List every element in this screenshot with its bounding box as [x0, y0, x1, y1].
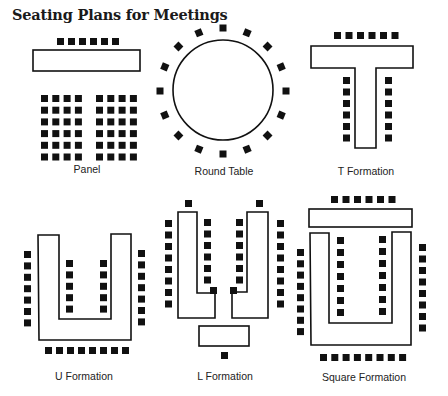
- chair-icon: [78, 347, 85, 354]
- chair-icon: [337, 297, 344, 304]
- chair-icon: [354, 354, 361, 361]
- chair-icon: [369, 32, 376, 39]
- chair-icon: [157, 88, 164, 95]
- chair-icon: [419, 279, 426, 286]
- chair-icon: [24, 251, 31, 258]
- chair-icon: [67, 347, 74, 354]
- chair-icon: [194, 28, 203, 37]
- chair-icon: [119, 107, 126, 114]
- chair-icon: [419, 244, 426, 251]
- chair-icon: [174, 42, 184, 52]
- chair-icon: [100, 306, 107, 313]
- label-square-formation: Square Formation: [322, 371, 406, 383]
- chair-icon: [277, 301, 284, 308]
- chair-icon: [96, 95, 103, 102]
- chair-icon: [366, 196, 373, 203]
- plan-l-formation: [165, 200, 284, 359]
- chair-icon: [111, 347, 118, 354]
- chair-icon: [343, 112, 350, 119]
- chair-icon: [389, 196, 396, 203]
- chair-icon: [96, 107, 103, 114]
- chair-icon: [52, 118, 59, 125]
- chair-icon: [119, 142, 126, 149]
- chair-icon: [160, 111, 169, 120]
- chair-icon: [160, 62, 169, 71]
- chair-icon: [399, 354, 406, 361]
- chair-icon: [107, 118, 114, 125]
- chair-icon: [165, 220, 172, 227]
- chair-icon: [56, 347, 63, 354]
- chair-icon: [277, 220, 284, 227]
- chair-icon: [64, 107, 71, 114]
- chair-icon: [96, 130, 103, 137]
- chair-icon: [90, 38, 97, 45]
- chair-icon: [130, 118, 137, 125]
- chair-icon: [419, 313, 426, 320]
- chair-icon: [236, 254, 243, 261]
- chair-icon: [138, 250, 145, 257]
- chair-icon: [68, 38, 75, 45]
- chair-icon: [79, 38, 86, 45]
- chair-icon: [41, 95, 48, 102]
- chair-icon: [100, 347, 107, 354]
- chair-icon: [130, 154, 137, 161]
- chair-icon: [66, 271, 73, 278]
- table: [199, 326, 249, 346]
- chair-icon: [419, 325, 426, 332]
- plan-square-formation: [297, 196, 426, 361]
- chair-icon: [337, 249, 344, 256]
- chair-icon: [100, 271, 107, 278]
- chair-icon: [119, 130, 126, 137]
- chair-icon: [337, 285, 344, 292]
- chair-icon: [283, 88, 290, 95]
- chair-icon: [377, 196, 384, 203]
- chair-icon: [96, 142, 103, 149]
- chair-icon: [52, 130, 59, 137]
- chair-icon: [165, 266, 172, 273]
- chair-icon: [41, 154, 48, 161]
- chair-icon: [138, 284, 145, 291]
- chair-icon: [379, 284, 386, 291]
- chair-icon: [385, 135, 392, 142]
- chair-icon: [64, 154, 71, 161]
- chair-icon: [297, 306, 304, 313]
- chair-icon: [385, 123, 392, 130]
- chair-icon: [236, 219, 243, 226]
- label-u-formation: U Formation: [55, 370, 113, 382]
- chair-icon: [75, 118, 82, 125]
- chair-icon: [75, 107, 82, 114]
- chair-icon: [165, 243, 172, 250]
- table: [33, 50, 140, 71]
- chair-icon: [122, 347, 129, 354]
- chair-icon: [107, 142, 114, 149]
- chair-icon: [24, 274, 31, 281]
- chair-icon: [119, 154, 126, 161]
- chair-icon: [66, 283, 73, 290]
- chair-icon: [112, 38, 119, 45]
- chair-icon: [204, 219, 211, 226]
- chair-icon: [419, 267, 426, 274]
- chair-icon: [277, 289, 284, 296]
- chair-icon: [277, 232, 284, 239]
- chair-icon: [343, 100, 350, 107]
- chair-icon: [419, 290, 426, 297]
- chair-icon: [100, 260, 107, 267]
- chair-icon: [52, 95, 59, 102]
- table: [311, 46, 413, 148]
- chair-icon: [165, 255, 172, 262]
- plan-u-formation: [24, 234, 145, 354]
- chair-icon: [107, 130, 114, 137]
- chair-icon: [236, 242, 243, 249]
- chair-icon: [41, 107, 48, 114]
- chair-icon: [138, 307, 145, 314]
- chair-icon: [263, 131, 273, 141]
- chair-icon: [379, 272, 386, 279]
- table: [310, 232, 411, 345]
- chair-icon: [204, 277, 211, 284]
- label-panel: Panel: [74, 163, 101, 175]
- chair-icon: [343, 77, 350, 84]
- chair-icon: [297, 283, 304, 290]
- chair-icon: [107, 107, 114, 114]
- chair-icon: [107, 154, 114, 161]
- chair-icon: [297, 249, 304, 256]
